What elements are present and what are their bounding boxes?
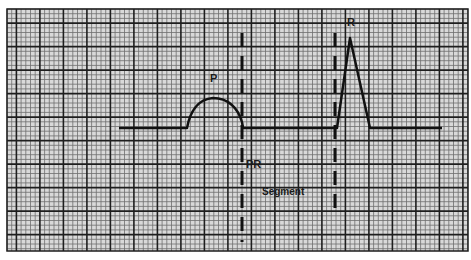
segment-label: Segment — [262, 186, 305, 197]
pr-label: PR — [246, 158, 261, 170]
r-wave-label: R — [347, 16, 355, 28]
ecg-diagram: P R PR Segment — [0, 0, 471, 260]
p-wave-label: P — [210, 72, 217, 84]
